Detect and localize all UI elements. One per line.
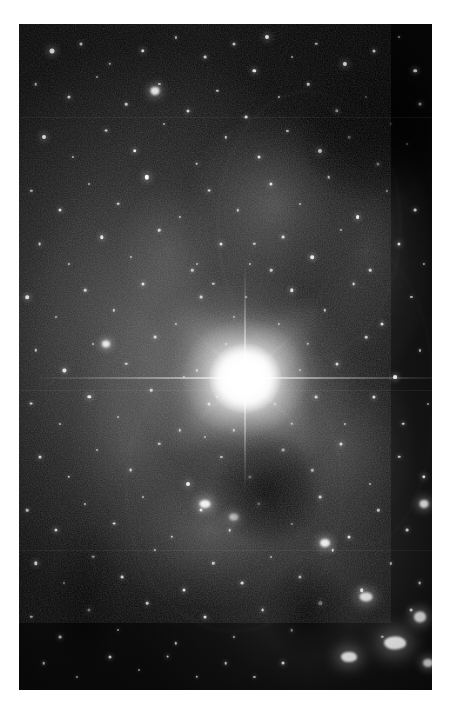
- astronomical-plate-frame: [19, 24, 432, 690]
- photograph-page: [0, 0, 461, 708]
- film-grain-texture: [19, 24, 391, 623]
- astronomical-plate: [19, 24, 432, 690]
